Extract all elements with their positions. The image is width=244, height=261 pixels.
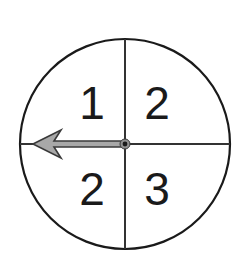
sector-label-top-right: 2 (144, 77, 170, 129)
sector-label-bottom-left: 2 (79, 163, 105, 215)
spinner-figure: 1 2 2 3 (0, 0, 244, 261)
sector-label-bottom-right: 3 (144, 163, 170, 215)
spinner-wheel-graphic[interactable]: 1 2 2 3 (0, 0, 244, 261)
sector-label-top-left: 1 (79, 77, 105, 129)
pivot-center-dot (123, 142, 128, 147)
